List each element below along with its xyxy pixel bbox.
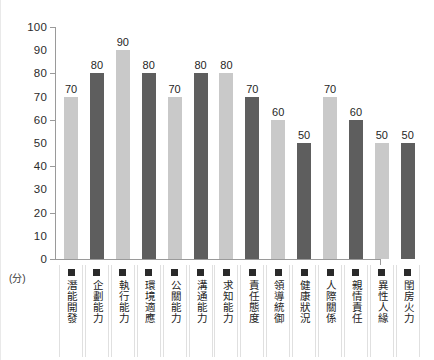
category-label-cell[interactable]: 健康狀況 (292, 265, 316, 357)
category-label-cell[interactable]: 領導統御 (266, 265, 290, 357)
bar-value-label: 80 (91, 59, 103, 71)
legend-square-icon (171, 269, 178, 276)
category-label-text: 溝通能力 (195, 280, 207, 324)
bar-column[interactable]: 80 (90, 27, 104, 259)
bar-value-label: 70 (65, 83, 77, 95)
bar-column[interactable]: 50 (401, 27, 415, 259)
category-label-cell[interactable]: 公關能力 (163, 265, 187, 357)
bar[interactable] (194, 73, 208, 259)
bar-column[interactable]: 90 (116, 27, 130, 259)
legend-square-icon (378, 269, 385, 276)
category-label-cell[interactable]: 異性人緣 (370, 265, 394, 357)
category-axis-labels: 潛能開發企劃能力執行能力環境適應公關能力溝通能力求知能力責任態度領導統御健康狀況… (55, 265, 427, 360)
bar-column[interactable]: 80 (142, 27, 156, 259)
bar-column[interactable]: 80 (219, 27, 233, 259)
category-label-text: 環境適應 (143, 280, 155, 324)
category-label-cell[interactable]: 責任態度 (240, 265, 264, 357)
bar-value-label: 70 (246, 83, 258, 95)
bar[interactable] (375, 143, 389, 259)
bar-value-label: 50 (376, 129, 388, 141)
category-label-text: 領導統御 (272, 280, 284, 324)
y-axis-tick-label: 0 (40, 253, 47, 265)
legend-square-icon (352, 269, 359, 276)
bar-value-label: 60 (350, 106, 362, 118)
y-axis-tick (50, 213, 55, 214)
bar-column[interactable]: 80 (194, 27, 208, 259)
y-axis-tick-label: 90 (34, 44, 47, 56)
y-axis-tick-label: 20 (34, 207, 47, 219)
category-label-text: 閨房火力 (402, 280, 414, 324)
bar-value-label: 90 (117, 36, 129, 48)
bar-column[interactable]: 60 (349, 27, 363, 259)
category-label-text: 責任態度 (247, 280, 259, 324)
bar[interactable] (116, 50, 130, 259)
bar-column[interactable]: 70 (323, 27, 337, 259)
bar[interactable] (401, 143, 415, 259)
bar-value-label: 80 (220, 59, 232, 71)
legend-square-icon (249, 269, 256, 276)
bar[interactable] (349, 120, 363, 259)
bar-column[interactable]: 70 (245, 27, 259, 259)
category-label-text: 企劃能力 (91, 280, 103, 324)
legend-square-icon (275, 269, 282, 276)
bar-value-label: 50 (298, 129, 310, 141)
legend-square-icon (68, 269, 75, 276)
category-label-text: 執行能力 (117, 280, 129, 324)
legend-square-icon (327, 269, 334, 276)
bar-column[interactable]: 70 (64, 27, 78, 259)
category-label-cell[interactable]: 環境適應 (137, 265, 161, 357)
legend-square-icon (223, 269, 230, 276)
bar-column[interactable]: 50 (297, 27, 311, 259)
bar[interactable] (297, 143, 311, 259)
y-axis-tick-label: 40 (34, 160, 47, 172)
bar[interactable] (142, 73, 156, 259)
bar[interactable] (168, 97, 182, 259)
x-axis-line (55, 259, 381, 260)
y-axis-tick-label: 10 (34, 230, 47, 242)
y-axis-tick (50, 166, 55, 167)
bar-value-label: 60 (272, 106, 284, 118)
bar-value-label: 50 (402, 129, 414, 141)
bar[interactable] (323, 97, 337, 259)
bar[interactable] (219, 73, 233, 259)
legend-square-icon (145, 269, 152, 276)
bar[interactable] (90, 73, 104, 259)
category-label-cell[interactable]: 執行能力 (111, 265, 135, 357)
category-label-text: 人際關係 (324, 280, 336, 324)
category-label-cell[interactable]: 閨房火力 (396, 265, 420, 357)
bar-column[interactable]: 70 (168, 27, 182, 259)
bar-column[interactable]: 60 (271, 27, 285, 259)
legend-square-icon (404, 269, 411, 276)
category-label-cell[interactable]: 溝通能力 (189, 265, 213, 357)
bar[interactable] (271, 120, 285, 259)
y-axis-tick (50, 120, 55, 121)
y-axis-tick-label: 50 (34, 137, 47, 149)
category-label-cell[interactable]: 潛能開發 (59, 265, 83, 357)
bar-value-label: 80 (194, 59, 206, 71)
category-label-text: 健康狀況 (298, 280, 310, 324)
y-axis-tick-label: 80 (34, 67, 47, 79)
bar[interactable] (64, 97, 78, 259)
legend-square-icon (197, 269, 204, 276)
plot-area: 0102030405060708090100 70809080708080706… (55, 27, 427, 259)
chart-page: 0102030405060708090100 70809080708080706… (0, 0, 434, 360)
unit-note: (分) (9, 270, 26, 285)
bar-value-label: 70 (168, 83, 180, 95)
category-label-cell[interactable]: 親情責任 (344, 265, 368, 357)
y-axis-tick-label: 30 (34, 183, 47, 195)
category-label-text: 異性人緣 (376, 280, 388, 324)
category-label-cell[interactable]: 企劃能力 (85, 265, 109, 357)
bar-column[interactable]: 50 (375, 27, 389, 259)
category-label-cell[interactable]: 人際關係 (318, 265, 342, 357)
bar-value-label: 70 (324, 83, 336, 95)
legend-square-icon (119, 269, 126, 276)
category-label-text: 公關能力 (169, 280, 181, 324)
bar[interactable] (245, 97, 259, 259)
category-label-cell[interactable]: 求知能力 (214, 265, 238, 357)
category-label-text: 親情責任 (350, 280, 362, 324)
bar-value-label: 80 (143, 59, 155, 71)
y-axis-tick-label: 100 (27, 21, 47, 33)
category-label-text: 潛能開發 (65, 280, 77, 324)
y-axis-tick-label: 70 (34, 91, 47, 103)
y-axis-tick (50, 27, 55, 28)
